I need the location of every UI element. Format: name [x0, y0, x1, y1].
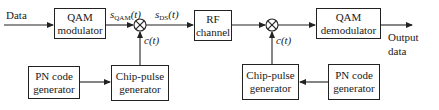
qam-modulator-line1: QAM	[57, 11, 102, 24]
multiplier-rx-icon	[266, 19, 278, 31]
rf-channel-line2: channel	[196, 26, 230, 39]
chip-pulse-generator-rx-block: Chip-pulse generator	[242, 64, 299, 100]
s-qam-signal-label: sQAM(t)	[110, 8, 141, 24]
qam-modulator-line2: modulator	[57, 24, 102, 37]
rf-channel-line1: RF	[196, 13, 230, 26]
c-t-tx-label: c(t)	[144, 34, 159, 46]
pn-code-generator-tx-block: PN code generator	[28, 66, 80, 99]
c-t-rx-label: c(t)	[276, 34, 291, 46]
qam-modulator-block: QAM modulator	[54, 8, 106, 39]
chip-pulse-generator-tx-block: Chip-pulse generator	[111, 65, 169, 101]
qam-demodulator-block: QAM demodulator	[316, 8, 381, 39]
input-data-label: Data	[6, 9, 27, 21]
spread-spectrum-block-diagram: Data QAM modulator sQAM(t) sDS(t) c(t) R…	[0, 0, 439, 110]
qam-demodulator-line2: demodulator	[321, 24, 377, 37]
rf-channel-block: RF channel	[194, 10, 232, 41]
s-ds-signal-label: sDS(t)	[155, 8, 179, 24]
output-data-label: Output data	[388, 30, 419, 58]
pn-code-generator-rx-block: PN code generator	[328, 64, 380, 100]
qam-demodulator-line1: QAM	[321, 11, 377, 24]
